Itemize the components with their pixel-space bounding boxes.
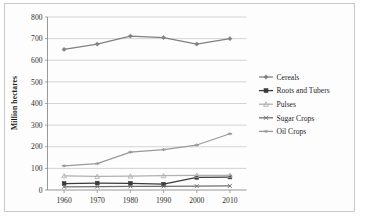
y-tick-label: 500 [31, 78, 43, 87]
y-axis-tick-labels: 0100200300400500600700800 [31, 13, 43, 195]
chart-legend: CerealsRoots and TubersPulsesSugar Crops… [259, 73, 330, 136]
x-tick-label: 1960 [56, 196, 71, 205]
x-tick-label: 1990 [156, 196, 171, 205]
legend-label: Oil Crops [277, 127, 307, 136]
x-tick-label: 1980 [123, 196, 138, 205]
legend-item-roots-and-tubers[interactable]: Roots and Tubers [259, 86, 330, 95]
y-tick-label: 600 [31, 56, 43, 65]
legend-label: Cereals [277, 73, 300, 82]
x-tick-label: 2010 [222, 196, 237, 205]
legend-item-oil-crops[interactable]: Oil Crops [259, 127, 306, 136]
series-layer [62, 34, 232, 189]
x-axis-tick-labels: 196019701980199020002010 [56, 196, 237, 205]
y-tick-label: 0 [39, 186, 43, 195]
x-tick-label: 2000 [189, 196, 204, 205]
data-point-diamond [264, 75, 268, 79]
data-point-dash [264, 130, 269, 133]
y-tick-label: 400 [31, 99, 43, 108]
y-axis-title: Million hectares [10, 76, 19, 130]
y-tick-label: 200 [31, 142, 43, 151]
series-sugar-crops [62, 184, 232, 189]
data-point-dash [62, 164, 66, 167]
legend-label: Sugar Crops [277, 114, 315, 123]
series-oil-crops [62, 132, 232, 167]
data-point-dash [161, 148, 165, 151]
line-chart: 0100200300400500600700800 19601970198019… [0, 0, 365, 217]
data-point-diamond [228, 37, 232, 41]
data-point-diamond [161, 35, 165, 39]
y-tick-label: 100 [31, 164, 43, 173]
y-tick-label: 300 [31, 121, 43, 130]
chart-figure: 0100200300400500600700800 19601970198019… [0, 0, 365, 217]
data-point-diamond [62, 47, 66, 51]
series-cereals [62, 34, 232, 52]
legend-label: Roots and Tubers [277, 86, 330, 95]
x-tick-label: 1970 [90, 196, 105, 205]
legend-item-cereals[interactable]: Cereals [259, 73, 299, 82]
data-point-square [95, 181, 99, 185]
data-point-square [264, 89, 268, 93]
data-point-diamond [128, 34, 132, 38]
legend-item-sugar-crops[interactable]: Sugar Crops [259, 114, 314, 123]
y-tick-label: 800 [31, 13, 43, 22]
gridlines [48, 17, 247, 168]
legend-label: Pulses [277, 100, 296, 109]
y-tick-label: 700 [31, 34, 43, 43]
legend-item-pulses[interactable]: Pulses [259, 100, 296, 109]
data-point-diamond [195, 42, 199, 46]
chart-plot-svg: 0100200300400500600700800 19601970198019… [0, 0, 365, 217]
data-point-diamond [95, 42, 99, 46]
